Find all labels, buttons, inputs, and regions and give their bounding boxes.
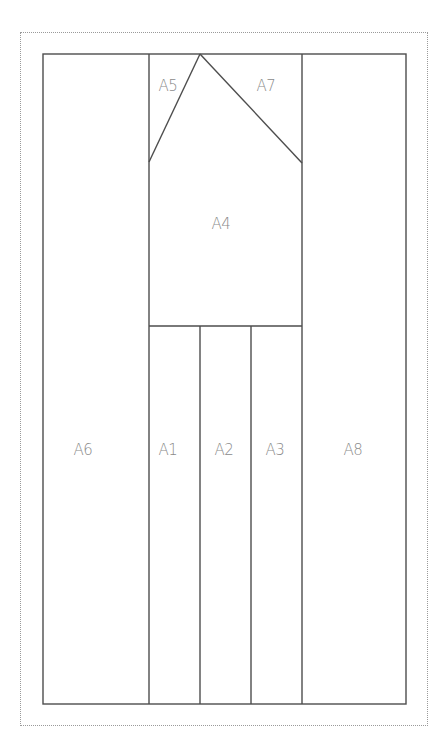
region-label-a3: A3 bbox=[266, 441, 285, 459]
region-label-a6: A6 bbox=[74, 441, 93, 459]
outer-rectangle bbox=[43, 54, 406, 704]
region-label-a1: A1 bbox=[159, 441, 178, 459]
region-label-a5: A5 bbox=[159, 77, 178, 95]
diagram-lines bbox=[0, 0, 446, 749]
diagonal-a5-a4 bbox=[149, 54, 200, 162]
region-label-a2: A2 bbox=[215, 441, 234, 459]
diagonal-a7-a4 bbox=[200, 54, 302, 163]
region-label-a8: A8 bbox=[344, 441, 363, 459]
region-label-a4: A4 bbox=[212, 215, 231, 233]
region-label-a7: A7 bbox=[257, 77, 276, 95]
